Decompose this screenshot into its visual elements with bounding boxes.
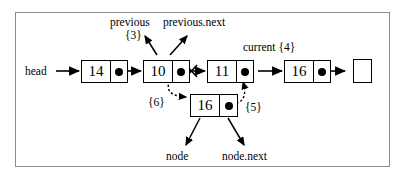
previous-step-label: {3} (125, 29, 142, 41)
head-label: head (25, 65, 47, 77)
list-node-1-value: 10 (144, 61, 173, 82)
node-label: node (166, 150, 188, 162)
list-node-2-value: 11 (208, 61, 237, 82)
current-label: current {4} (243, 41, 295, 53)
previous-label: previous (110, 16, 150, 28)
previous-next-label: previous.next (163, 16, 225, 28)
list-node-2: 11 (207, 60, 254, 83)
new-node-pointer (220, 95, 237, 116)
new-node: 16 (190, 94, 238, 117)
list-node-0-pointer (111, 61, 127, 82)
list-node-3: 16 (284, 60, 331, 83)
step5-label: {5} (245, 101, 262, 113)
node-next-label: node.next (222, 150, 267, 162)
list-node-0: 14 (81, 60, 128, 83)
list-node-3-pointer (314, 61, 330, 82)
diagram-frame (15, 12, 390, 167)
list-node-0-value: 14 (82, 61, 111, 82)
diagram-canvas: 14 10 11 16 16 head previous {3} previou… (0, 0, 403, 181)
list-node-1: 10 (143, 60, 190, 83)
list-node-3-value: 16 (285, 61, 314, 82)
list-node-1-pointer (173, 61, 189, 82)
list-node-2-pointer (237, 61, 253, 82)
new-node-value: 16 (191, 95, 220, 116)
null-terminator-box (353, 59, 372, 83)
step6-label: {6} (148, 96, 165, 108)
